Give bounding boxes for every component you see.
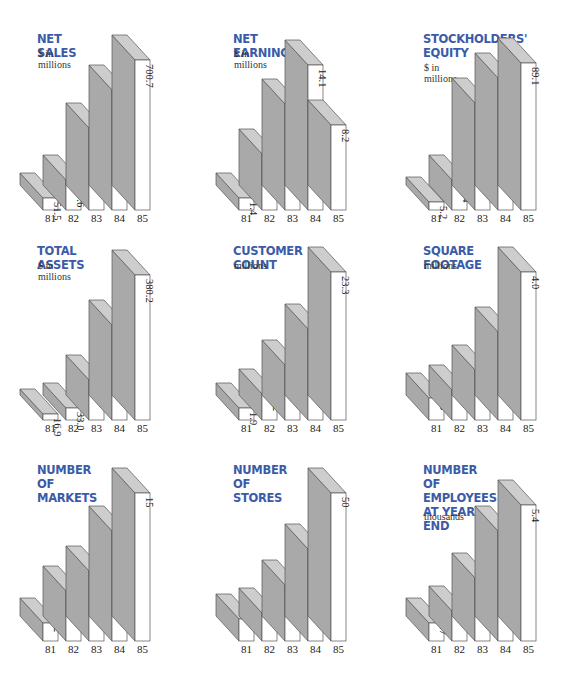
x-axis-label: 82	[449, 212, 471, 224]
x-axis-label: 85	[132, 422, 154, 434]
bar-value-label: 700.7	[144, 64, 155, 88]
x-axis-label: 81	[40, 422, 62, 434]
x-axis-label: 85	[518, 212, 540, 224]
bar-chart-3d: 1.45.310.314.18.2	[196, 0, 391, 224]
bar-85: 4.0	[498, 247, 541, 420]
x-axis-label: 84	[305, 422, 327, 434]
bar-value-label: 14.1	[317, 69, 328, 87]
x-axis-label: 83	[472, 422, 494, 434]
bar-value-label: 8.2	[340, 129, 351, 142]
x-axis-label: 83	[86, 643, 108, 655]
bar-85: 23.3	[308, 247, 351, 420]
x-axis-label: 84	[495, 422, 517, 434]
bar-85: 380.2	[112, 250, 155, 420]
x-axis-label: 85	[328, 212, 350, 224]
x-axis-label: 85	[328, 422, 350, 434]
bar-chart-3d: 810193150	[196, 448, 391, 672]
x-axis-label: 82	[63, 212, 85, 224]
bar-value-label: 23.3	[340, 276, 351, 294]
bar-chart-3d: .6.71.42.44.0	[386, 224, 581, 448]
x-axis-label: 81	[426, 422, 448, 434]
bar-85: 5.4	[498, 480, 541, 641]
x-axis-label: 84	[305, 643, 327, 655]
bar-85: 50	[308, 468, 351, 641]
bar-chart-3d: 5.218.465.380.289.1	[386, 0, 581, 224]
x-axis-label: 81	[236, 643, 258, 655]
x-axis-label: 82	[259, 212, 281, 224]
x-axis-label: 84	[495, 212, 517, 224]
bar-value-label: 89.1	[530, 67, 541, 85]
bar-value-label: 5.4	[530, 509, 541, 523]
x-axis-label: 82	[63, 422, 85, 434]
x-axis-label: 82	[449, 422, 471, 434]
bar-value-label: 15	[144, 497, 155, 508]
bar-85: 15	[112, 468, 155, 641]
x-axis-label: 83	[282, 643, 304, 655]
bar-85: 89.1	[498, 38, 541, 210]
x-axis-label: 84	[109, 422, 131, 434]
x-axis-label: 85	[132, 212, 154, 224]
x-axis-label: 81	[40, 643, 62, 655]
bar-chart-3d: 1.94.28.514.323.3	[196, 224, 391, 448]
x-axis-label: 83	[282, 422, 304, 434]
x-axis-label: 82	[259, 422, 281, 434]
bar-chart-3d: 16.933.0105.2249.4380.2	[0, 224, 195, 448]
x-axis-label: 85	[518, 422, 540, 434]
x-axis-label: 85	[328, 643, 350, 655]
bar-value-label: 380.2	[144, 279, 155, 303]
bar-value-label: 50	[340, 497, 351, 508]
x-axis-label: 81	[236, 212, 258, 224]
x-axis-label: 84	[305, 212, 327, 224]
x-axis-label: 81	[426, 212, 448, 224]
bar-chart-3d: .71.12.44.05.4	[386, 448, 581, 672]
x-axis-label: 84	[495, 643, 517, 655]
x-axis-label: 82	[259, 643, 281, 655]
bar-chart-3d: 2571115	[0, 448, 195, 672]
bar-85: 700.7	[112, 35, 155, 210]
x-axis-label: 83	[472, 212, 494, 224]
bar-value-label: 4.0	[530, 276, 541, 289]
x-axis-label: 81	[236, 422, 258, 434]
bar-chart-3d: 51.5117.6256.2432.8700.7	[0, 0, 195, 224]
x-axis-label: 83	[86, 422, 108, 434]
x-axis-label: 82	[63, 643, 85, 655]
x-axis-label: 85	[132, 643, 154, 655]
x-axis-label: 84	[109, 643, 131, 655]
x-axis-label: 83	[282, 212, 304, 224]
x-axis-label: 81	[426, 643, 448, 655]
x-axis-label: 82	[449, 643, 471, 655]
x-axis-label: 85	[518, 643, 540, 655]
x-axis-label: 83	[472, 643, 494, 655]
x-axis-label: 81	[40, 212, 62, 224]
x-axis-label: 84	[109, 212, 131, 224]
x-axis-label: 83	[86, 212, 108, 224]
